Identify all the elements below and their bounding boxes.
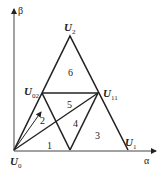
- vertex-u02: U02: [24, 86, 39, 100]
- vertex-u2: U2: [64, 22, 75, 36]
- alpha-label: α: [144, 156, 149, 166]
- beta-label: β: [18, 6, 23, 16]
- region-5: 5: [67, 100, 72, 110]
- region-3: 3: [95, 131, 100, 141]
- region-1: 1: [47, 141, 52, 151]
- space-vector-diagram: β α U2 U02 U11 U1 U0 1 2 3 4 5 6: [0, 0, 160, 173]
- region-2: 2: [40, 116, 45, 126]
- line-u0-u11: [14, 93, 98, 150]
- vertex-u0: U0: [10, 156, 21, 170]
- region-6: 6: [68, 68, 73, 78]
- reference-vector-arrow: [14, 112, 41, 150]
- vertex-u1: U1: [125, 137, 136, 151]
- vertex-u11: U11: [103, 88, 118, 102]
- region-4: 4: [73, 119, 78, 129]
